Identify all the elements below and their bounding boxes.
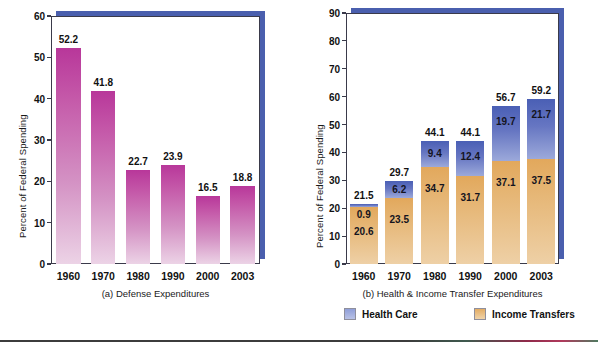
bar-value-label-health-care-1970: 6.2 xyxy=(392,184,406,195)
y-tick-mark-80 xyxy=(342,40,346,41)
bar-value-label-2000: 16.5 xyxy=(198,182,217,193)
bar-value-label-health-care-1960: 0.9 xyxy=(357,209,371,220)
legend-label-health-care: Health Care xyxy=(362,309,418,320)
y-tick-label-50: 50 xyxy=(318,119,340,130)
y-tick-label-50: 50 xyxy=(23,52,45,63)
legend-swatch-health-care-icon xyxy=(344,308,356,320)
bar-total-label-1960: 21.5 xyxy=(354,190,373,201)
legend-item-health-care: Health Care xyxy=(344,308,418,320)
panel-a-plot-area xyxy=(51,16,260,264)
bar-defense-1990 xyxy=(161,165,185,264)
bar-total-label-1970: 29.7 xyxy=(390,167,409,178)
y-tick-label-10: 10 xyxy=(318,231,340,242)
x-tick-label-2000: 2000 xyxy=(494,270,517,282)
bar-value-label-1970: 41.8 xyxy=(94,77,113,88)
x-tick-label-1970: 1970 xyxy=(388,270,411,282)
y-tick-label-30: 30 xyxy=(318,175,340,186)
y-tick-label-40: 40 xyxy=(318,147,340,158)
y-tick-mark-20 xyxy=(342,208,346,209)
bar-value-label-income-transfers-1970: 23.5 xyxy=(390,214,409,225)
y-tick-label-0: 0 xyxy=(318,259,340,270)
panel-b-health-income-transfer-expenditures: Percent of Federal Spending 010203040506… xyxy=(300,0,598,351)
panel-a-defense-expenditures: Percent of Federal Spending 010203040506… xyxy=(0,0,300,351)
bar-total-label-2000: 56.7 xyxy=(496,92,515,103)
x-tick-label-1980: 1980 xyxy=(423,270,446,282)
x-tick-label-1960: 1960 xyxy=(57,270,80,282)
x-tick-label-1990: 1990 xyxy=(459,270,482,282)
y-tick-label-20: 20 xyxy=(318,203,340,214)
bar-value-label-1960: 52.2 xyxy=(59,34,78,45)
bar-total-label-1980: 44.1 xyxy=(425,127,444,138)
y-tick-mark-30 xyxy=(342,180,346,181)
bar-value-label-income-transfers-1980: 34.7 xyxy=(425,183,444,194)
panel-b-caption: (b) Health & Income Transfer Expenditure… xyxy=(362,288,542,299)
y-tick-label-90: 90 xyxy=(318,8,340,19)
bar-defense-1970 xyxy=(91,91,115,264)
bar-value-label-income-transfers-1960: 20.6 xyxy=(354,226,373,237)
y-tick-mark-50 xyxy=(342,124,346,125)
y-tick-label-0: 0 xyxy=(23,259,45,270)
bar-segment-health-care-2000 xyxy=(492,106,520,161)
y-tick-mark-0 xyxy=(342,263,346,264)
bar-value-label-income-transfers-2000: 37.1 xyxy=(496,177,515,188)
bar-value-label-health-care-2000: 19.7 xyxy=(496,116,515,127)
y-tick-label-40: 40 xyxy=(23,93,45,104)
y-tick-mark-10 xyxy=(47,222,51,223)
y-tick-label-60: 60 xyxy=(23,11,45,22)
legend-item-income-transfers: Income Transfers xyxy=(474,308,575,320)
figure-two-panel-federal-spending: Percent of Federal Spending 010203040506… xyxy=(0,0,598,351)
bar-value-label-1980: 22.7 xyxy=(128,156,147,167)
x-tick-label-1960: 1960 xyxy=(352,270,375,282)
panel-a-caption: (a) Defense Expenditures xyxy=(102,288,210,299)
y-tick-mark-70 xyxy=(342,68,346,69)
panel-b-y-axis-title: Percent of Federal Spending xyxy=(314,124,325,248)
bar-segment-health-care-1960 xyxy=(350,204,378,207)
bar-total-label-2003: 59.2 xyxy=(532,85,551,96)
bar-value-label-health-care-2003: 21.7 xyxy=(532,109,551,120)
y-tick-label-30: 30 xyxy=(23,135,45,146)
bar-segment-income-transfers-1990 xyxy=(456,176,484,264)
y-tick-mark-30 xyxy=(47,139,51,140)
bar-value-label-income-transfers-1990: 31.7 xyxy=(461,192,480,203)
y-tick-mark-0 xyxy=(47,263,51,264)
x-tick-label-2003: 2003 xyxy=(530,270,553,282)
bar-defense-1980 xyxy=(126,170,150,264)
y-tick-mark-40 xyxy=(47,98,51,99)
x-tick-label-2003: 2003 xyxy=(231,270,254,282)
bar-value-label-health-care-1980: 9.4 xyxy=(428,148,442,159)
panel-b-legend: Health Care Income Transfers xyxy=(344,308,584,330)
y-tick-mark-40 xyxy=(342,152,346,153)
y-tick-label-60: 60 xyxy=(318,91,340,102)
y-tick-mark-60 xyxy=(342,96,346,97)
y-tick-label-80: 80 xyxy=(318,35,340,46)
y-tick-mark-10 xyxy=(342,236,346,237)
bar-value-label-income-transfers-2003: 37.5 xyxy=(532,175,551,186)
y-tick-label-20: 20 xyxy=(23,176,45,187)
x-tick-label-1990: 1990 xyxy=(161,270,184,282)
bar-value-label-health-care-1990: 12.4 xyxy=(461,151,480,162)
bar-value-label-1990: 23.9 xyxy=(163,151,182,162)
legend-label-income-transfers: Income Transfers xyxy=(492,309,575,320)
y-tick-label-10: 10 xyxy=(23,217,45,228)
y-tick-label-70: 70 xyxy=(318,63,340,74)
x-tick-label-1970: 1970 xyxy=(92,270,115,282)
y-tick-mark-60 xyxy=(47,15,51,16)
bar-segment-income-transfers-1970 xyxy=(385,198,413,264)
bar-defense-1960 xyxy=(56,48,80,264)
bar-defense-2000 xyxy=(196,196,220,264)
y-tick-mark-20 xyxy=(47,181,51,182)
bar-segment-income-transfers-1980 xyxy=(421,167,449,264)
bottom-divider-rule xyxy=(0,340,598,342)
legend-swatch-income-transfers-icon xyxy=(474,308,486,320)
bar-total-label-1990: 44.1 xyxy=(461,127,480,138)
bar-defense-2003 xyxy=(230,186,254,264)
bar-value-label-2003: 18.8 xyxy=(233,172,252,183)
x-tick-label-2000: 2000 xyxy=(196,270,219,282)
x-tick-label-1980: 1980 xyxy=(126,270,149,282)
y-tick-mark-50 xyxy=(47,57,51,58)
y-tick-mark-90 xyxy=(342,12,346,13)
